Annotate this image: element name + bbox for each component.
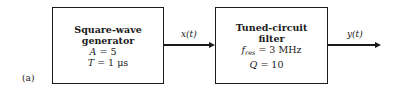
block-title-line: Tuned-circuit xyxy=(236,22,308,33)
square-wave-generator-block: Square-wave generator A = 5 T = 1 μs xyxy=(52,7,164,84)
param-resonant-frequency: fres = 3 MHz xyxy=(242,44,302,59)
param-value: = 1 μs xyxy=(97,57,128,68)
param-value: = 3 MHz xyxy=(258,44,301,55)
signal-wire-y xyxy=(328,44,376,46)
param-quality-factor: Q = 10 xyxy=(250,59,284,70)
param-value: = 5 xyxy=(99,46,116,57)
block-title-line: filter xyxy=(259,33,285,44)
signal-wire-x xyxy=(164,44,209,46)
param-symbol: Q xyxy=(250,59,258,70)
param-amplitude: A = 5 xyxy=(90,46,117,57)
block-title-line: generator xyxy=(82,35,135,46)
param-symbol: T xyxy=(88,57,94,68)
param-symbol: A xyxy=(90,46,97,57)
signal-label-x: x(t) xyxy=(181,29,197,39)
param-period: T = 1 μs xyxy=(88,57,128,68)
param-subscript: res xyxy=(245,49,255,57)
param-value: = 10 xyxy=(260,59,283,70)
signal-label-y: y(t) xyxy=(347,29,363,39)
tuned-circuit-filter-block: Tuned-circuit filter fres = 3 MHz Q = 10 xyxy=(215,7,328,84)
block-title-line: Square-wave xyxy=(74,24,141,35)
figure-label: (a) xyxy=(22,73,34,83)
arrowhead-icon xyxy=(375,42,381,48)
